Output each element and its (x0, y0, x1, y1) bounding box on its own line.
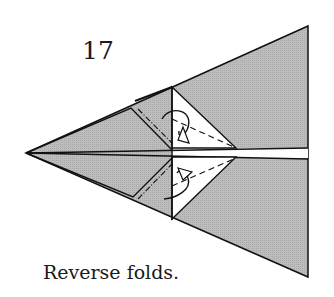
origami-diagram (0, 0, 334, 297)
caption: Reverse folds. (43, 261, 179, 283)
step-number: 17 (82, 36, 114, 65)
